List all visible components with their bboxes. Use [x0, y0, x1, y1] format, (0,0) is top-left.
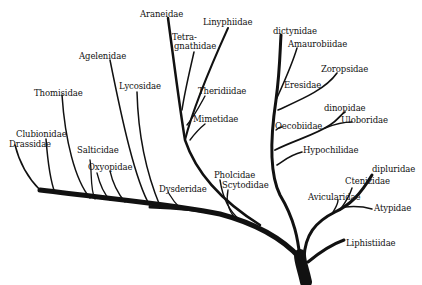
- label-dipluridae: dipluridae: [372, 165, 415, 174]
- label-amaurobiidae: Amaurobiidae: [288, 40, 347, 49]
- label-scytodidae: Scytodidae: [222, 181, 269, 190]
- label-uloboridae: Uloboridae: [341, 116, 388, 125]
- label-avicularidae: Avicularidae: [308, 193, 360, 202]
- label-dysderidae: Dysderidae: [159, 185, 207, 194]
- label-agelenidae: Agelenidae: [79, 52, 126, 61]
- label-araneidae: Araneidae: [140, 10, 183, 19]
- label-oecobiidae: Oecobiidae: [275, 122, 322, 131]
- label-tetragnathidae-line2: gnathidae: [174, 42, 216, 51]
- label-liphistiidae: Liphistiidae: [346, 239, 396, 248]
- label-atypidae: Atypidae: [374, 204, 411, 213]
- label-oxyopidae: Oxyopidae: [88, 163, 132, 172]
- label-eresidae: Eresidae: [284, 81, 321, 90]
- label-thomisidae: Thomisidae: [34, 89, 83, 98]
- label-hypochilidae: Hypochilidae: [303, 146, 359, 155]
- label-pholcidae: Pholcidae: [214, 171, 255, 180]
- label-theridiidae: Theridiidae: [198, 87, 246, 96]
- label-linyphiidae: Linyphiidae: [203, 18, 252, 27]
- label-lycosidae: Lycosidae: [119, 82, 161, 91]
- label-salticidae: Salticidae: [77, 146, 119, 155]
- phylogenetic-tree-diagram: Araneidae Linyphiidae Tetra- gnathidae d…: [0, 0, 422, 285]
- label-drassidae: Drassidae: [9, 140, 51, 149]
- label-ctenizidae: Ctenizidae: [345, 177, 390, 186]
- label-clubionidae: Clubionidae: [16, 130, 67, 139]
- label-zoropsidae: Zoropsidae: [321, 65, 368, 74]
- label-mimetidae: Mimetidae: [193, 115, 238, 124]
- label-dinopidae: dinopidae: [324, 104, 366, 113]
- label-dictynidae: dictynidae: [273, 27, 317, 36]
